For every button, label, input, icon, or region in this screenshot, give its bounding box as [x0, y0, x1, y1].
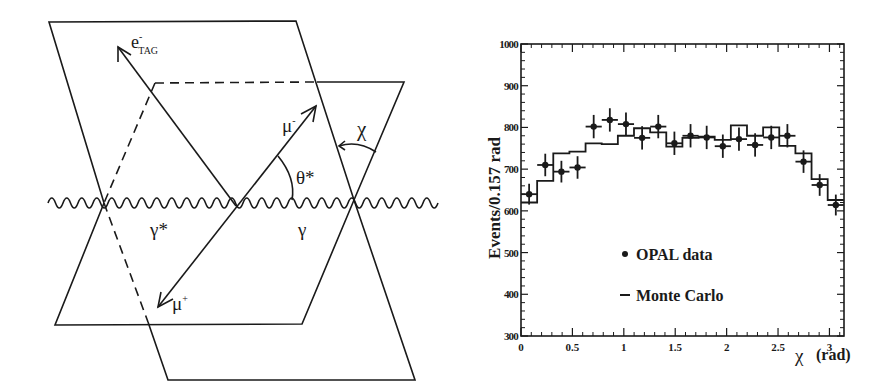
data-point — [687, 133, 693, 139]
label-theta-star: θ* — [296, 167, 315, 188]
label-mu-plus: μ+ — [172, 293, 188, 314]
y-axis-label: Events/0.157 rad — [485, 137, 504, 259]
theta-star-arc — [278, 156, 293, 200]
x-axis-label: χ — [794, 345, 804, 366]
data-point — [816, 182, 822, 188]
data-point — [590, 123, 596, 129]
data-point — [703, 134, 709, 140]
y-tick-label: 700 — [504, 163, 519, 175]
data-point — [623, 121, 629, 127]
y-tick-label: 900 — [504, 80, 519, 92]
y-tick-label: 300 — [504, 330, 519, 342]
legend-marker-data-icon — [622, 251, 628, 257]
plane-2-lower — [148, 200, 415, 380]
monte-carlo-histogram — [521, 125, 844, 202]
plane-2-upper — [317, 82, 404, 200]
data-point — [752, 142, 758, 148]
legend: OPAL data Monte Carlo — [620, 246, 724, 304]
x-tick-label: 2 — [724, 341, 730, 353]
x-tick-label: 1 — [621, 341, 627, 353]
label-gamma-star: γ* — [149, 219, 168, 240]
data-point — [526, 191, 532, 197]
plane-1-lower — [55, 200, 354, 325]
data-point — [655, 123, 661, 129]
label-gamma: γ — [297, 219, 306, 240]
x-tick-label: 0.5 — [566, 341, 580, 353]
x-tick-label: 2.5 — [771, 341, 785, 353]
label-mu-minus: μ- — [282, 115, 296, 136]
data-point — [800, 158, 806, 164]
data-point — [558, 168, 564, 174]
x-tick-label: 0 — [518, 341, 524, 353]
x-axis-unit: (rad) — [816, 346, 851, 364]
y-tick-label: 500 — [504, 247, 519, 259]
chi-distribution-chart: 300400500600700800900100000.511.522.53 E… — [480, 0, 884, 392]
y-tick-label: 400 — [504, 288, 519, 300]
y-tick-label: 1000 — [499, 38, 519, 50]
data-point — [574, 164, 580, 170]
label-chi: χ — [356, 117, 367, 141]
data-point — [720, 143, 726, 149]
chi-arc — [339, 144, 376, 152]
data-point — [833, 202, 839, 208]
x-tick-label: 1.5 — [668, 341, 682, 353]
data-point — [784, 133, 790, 139]
data-point — [768, 134, 774, 140]
y-tick-label: 600 — [504, 205, 519, 217]
data-point — [671, 140, 677, 146]
legend-label-data: OPAL data — [636, 246, 713, 263]
kinematics-diagram: e-TAG μ- μ+ θ* χ γ* γ — [0, 0, 440, 392]
data-point — [736, 136, 742, 142]
data-point — [542, 162, 548, 168]
y-tick-label: 800 — [504, 121, 519, 133]
data-point — [639, 135, 645, 141]
label-e-tag: e-TAG — [131, 31, 158, 56]
data-point — [607, 117, 613, 123]
legend-label-mc: Monte Carlo — [636, 287, 724, 304]
